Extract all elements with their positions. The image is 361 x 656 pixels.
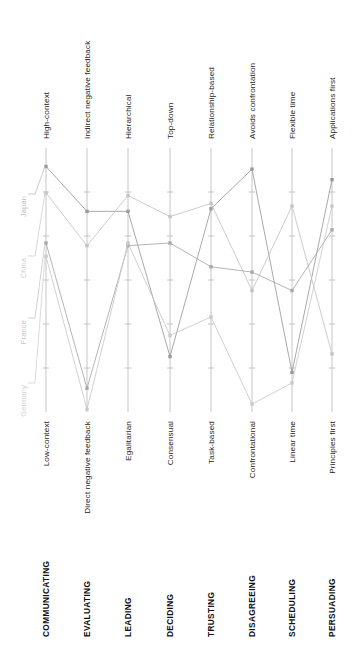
data-point-china-persuading [330, 352, 333, 355]
culture-map-svg: High-contextIndirect negative feedbackHi… [0, 0, 361, 656]
top-pole-label-persuading: Applications first [328, 77, 337, 139]
data-point-france-scheduling [290, 289, 293, 292]
data-point-france-evaluating [85, 387, 88, 390]
bottom-pole-label-evaluating: Direct negative feedback [83, 420, 92, 513]
bottom-pole-label-persuading: Principles first [328, 420, 337, 473]
data-point-china-disagreeing [250, 289, 253, 292]
dimension-label-disagreeing: DISAGREEING [247, 575, 257, 637]
bottom-pole-label-scheduling: Linear time [288, 421, 297, 463]
top-pole-label-communicating: High-context [42, 91, 51, 139]
data-point-japan-leading [126, 210, 129, 213]
data-point-japan-trusting [209, 207, 212, 210]
data-point-china-scheduling [290, 204, 293, 207]
top-pole-label-evaluating: Indirect negative feedback [83, 40, 92, 139]
dimension-label-evaluating: EVALUATING [82, 581, 92, 637]
data-point-france-disagreeing [250, 270, 253, 273]
dimension-label-scheduling: SCHEDULING [287, 579, 297, 637]
data-point-germany-leading [126, 241, 129, 244]
dimension-label-trusting: TRUSTING [206, 592, 216, 637]
country-legend-label-germany: Germany [19, 385, 28, 417]
data-point-china-deciding [168, 215, 171, 218]
country-legend-leader-japan [28, 166, 45, 194]
series-line-germany [46, 206, 332, 409]
top-pole-label-scheduling: Flexible time [288, 91, 297, 139]
bottom-pole-labels-group: Low-contextDirect negative feedbackEgali… [42, 420, 337, 513]
country-legend-leader-germany [28, 256, 45, 383]
culture-map-chart: High-contextIndirect negative feedbackHi… [0, 0, 361, 656]
data-point-france-persuading [330, 228, 333, 231]
top-pole-label-disagreeing: Avoids confrontation [248, 63, 257, 139]
data-point-japan-persuading [330, 178, 333, 181]
data-point-japan-disagreeing [250, 167, 253, 170]
data-point-germany-persuading [330, 204, 333, 207]
bottom-pole-label-leading: Egalitarian [124, 421, 133, 461]
data-point-france-trusting [209, 265, 212, 268]
bottom-pole-label-disagreeing: Confrontational [248, 421, 257, 478]
dimension-label-leading: LEADING [123, 597, 133, 637]
data-point-japan-deciding [168, 355, 171, 358]
series-line-china [46, 193, 332, 354]
data-point-china-evaluating [85, 244, 88, 247]
series-group [44, 165, 333, 411]
dimension-labels-group: COMMUNICATINGEVALUATINGLEADINGDECIDINGTR… [41, 561, 337, 637]
top-pole-label-trusting: Relationship-based [207, 67, 216, 139]
data-point-japan-evaluating [85, 210, 88, 213]
country-legend-leader-china [28, 193, 45, 256]
country-legend-label-japan: Japan [19, 196, 28, 217]
top-pole-label-deciding: Top-down [166, 103, 175, 139]
data-point-germany-trusting [209, 315, 212, 318]
data-point-germany-disagreeing [250, 402, 253, 405]
dimension-label-persuading: PERSUADING [327, 578, 337, 637]
dimension-label-deciding: DECIDING [165, 594, 175, 637]
data-point-japan-scheduling [290, 371, 293, 374]
bottom-pole-label-trusting: Task-based [207, 421, 216, 464]
country-legend-leader-france [28, 243, 45, 318]
top-pole-label-leading: Hierarchical [124, 94, 133, 139]
data-point-france-deciding [168, 241, 171, 244]
data-point-germany-evaluating [85, 408, 88, 411]
data-point-germany-deciding [168, 334, 171, 337]
country-legend-label-china: China [19, 257, 28, 278]
data-point-china-trusting [209, 202, 212, 205]
bottom-pole-label-deciding: Consensual [166, 421, 175, 465]
data-point-china-leading [126, 194, 129, 197]
top-pole-labels-group: High-contextIndirect negative feedbackHi… [42, 40, 337, 139]
bottom-pole-label-communicating: Low-context [42, 420, 51, 466]
data-point-germany-scheduling [290, 381, 293, 384]
country-legend-group: JapanChinaFranceGermany [19, 166, 45, 416]
dimension-label-communicating: COMMUNICATING [41, 561, 51, 637]
series-line-japan [46, 166, 332, 372]
country-legend-label-france: France [19, 320, 28, 344]
series-line-france [46, 230, 332, 388]
